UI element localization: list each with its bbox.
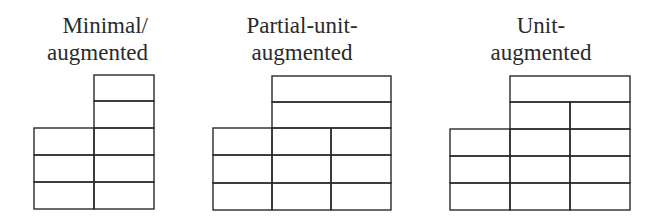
upper-cell: [510, 76, 630, 102]
grid: [34, 75, 154, 209]
base-cell: [94, 182, 154, 209]
upper-cell: [510, 102, 570, 129]
diagram-title-line-1: Unit-: [517, 13, 566, 38]
base-cell: [450, 156, 510, 183]
diagram-title-line-2: augmented: [47, 40, 148, 65]
augmentation-diagram: Minimal/ augmented Partial-unit- augment…: [0, 0, 654, 222]
base-cell: [34, 128, 94, 155]
base-cell: [510, 156, 570, 183]
upper-cell: [570, 102, 630, 129]
base-cell: [34, 182, 94, 209]
base-cell: [213, 128, 272, 155]
base-cell: [34, 155, 94, 182]
diagram-title-line-2: augmented: [491, 40, 592, 65]
diagram-unit-augmented: Unit- augmented: [450, 13, 630, 210]
base-cell: [272, 183, 331, 210]
base-cell: [213, 155, 272, 183]
base-cell: [331, 183, 391, 210]
upper-cell: [94, 75, 154, 101]
upper-cell: [94, 101, 154, 128]
diagram-title-line-1: Minimal/: [62, 13, 148, 38]
base-cell: [331, 128, 391, 155]
base-cell: [510, 183, 570, 210]
base-cell: [510, 129, 570, 156]
base-cell: [272, 128, 331, 155]
base-cell: [570, 156, 630, 183]
diagram-title-line-1: Partial-unit-: [246, 13, 357, 38]
upper-cell: [272, 102, 391, 128]
grid: [450, 76, 630, 210]
diagram-title-line-2: augmented: [252, 40, 353, 65]
base-cell: [450, 129, 510, 156]
base-cell: [213, 183, 272, 210]
base-cell: [570, 129, 630, 156]
base-cell: [94, 155, 154, 182]
diagram-minimal-augmented: Minimal/ augmented: [34, 13, 154, 209]
base-cell: [272, 155, 331, 183]
base-cell: [331, 155, 391, 183]
base-cell: [450, 183, 510, 210]
grid: [213, 76, 391, 210]
upper-cell: [272, 76, 391, 102]
base-cell: [570, 183, 630, 210]
diagram-partial-unit-augmented: Partial-unit- augmented: [213, 13, 391, 210]
base-cell: [94, 128, 154, 155]
